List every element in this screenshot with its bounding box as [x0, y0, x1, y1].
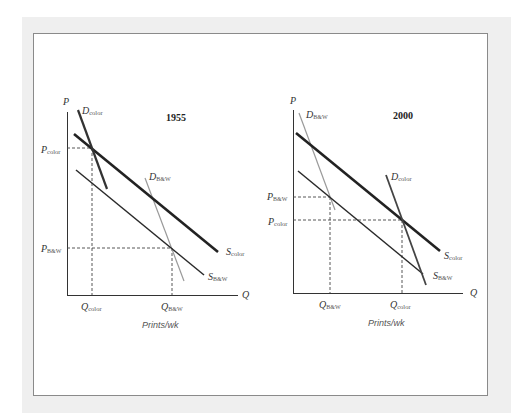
d-color-curve: [78, 110, 107, 189]
p-color-label: Pcolor: [40, 144, 61, 155]
x-axis-title: Prints/wk: [142, 320, 179, 330]
x-axis-title: Prints/wk: [368, 318, 405, 328]
s-bw-label: SB&W: [208, 271, 228, 282]
chart-title: 1955: [166, 112, 186, 123]
p-axis-label: P: [289, 95, 296, 106]
q-color-label: Qcolor: [81, 301, 102, 312]
chart-title: 2000: [393, 110, 413, 121]
supply-demand-figure: P Q 1955 Dcolor DB&W Scolor SB&W Pcolor …: [0, 0, 511, 413]
q-bw-label: QB&W: [161, 301, 183, 312]
d-bw-curve: [145, 178, 184, 281]
s-bw-curve: [76, 170, 204, 275]
p-color-label: Pcolor: [267, 216, 288, 227]
s-color-curve: [74, 134, 218, 252]
s-bw-label: SB&W: [433, 270, 453, 281]
q-axis-label: Q: [470, 287, 478, 298]
d-bw-label: DB&W: [305, 109, 328, 120]
p-axis-label: P: [62, 96, 69, 107]
p-bw-label: PB&W: [40, 243, 62, 254]
d-bw-label: DB&W: [148, 171, 171, 182]
s-color-label: Scolor: [444, 250, 463, 261]
s-color-curve: [296, 133, 440, 251]
p-bw-label: PB&W: [266, 191, 288, 202]
q-axis-label: Q: [242, 289, 250, 300]
d-color-curve: [386, 175, 426, 285]
d-color-label: Dcolor: [81, 105, 103, 116]
s-color-label: Scolor: [226, 246, 245, 257]
chart-2000: P Q 2000 DB&W Dcolor Scolor SB&W PB&W Pc…: [266, 95, 478, 328]
q-bw-label: QB&W: [319, 299, 341, 310]
q-color-label: Qcolor: [390, 299, 411, 310]
d-color-label: Dcolor: [390, 171, 412, 182]
chart-1955: P Q 1955 Dcolor DB&W Scolor SB&W Pcolor …: [40, 96, 250, 330]
